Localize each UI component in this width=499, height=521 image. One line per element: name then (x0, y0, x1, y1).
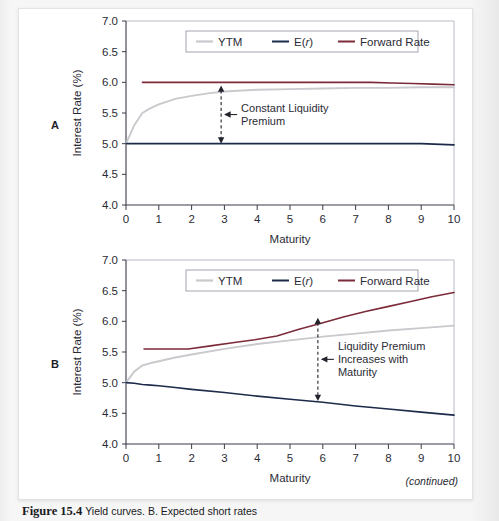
annotation-text-line: Maturity (338, 366, 378, 378)
y-axis-title: Interest Rate (%) (71, 308, 83, 395)
panel-b-plot: 4.04.55.05.56.06.57.0012345678910Maturit… (19, 254, 474, 487)
y-tick-label: 5.5 (102, 107, 118, 119)
annotation-text-line: Premium (241, 115, 285, 127)
x-tick-label: 10 (448, 452, 461, 464)
y-tick-label: 7.0 (102, 15, 118, 27)
x-tick-label: 8 (385, 213, 391, 225)
continued-note: (continued) (405, 475, 458, 487)
legend-label-ytm: YTM (218, 275, 242, 287)
x-tick-label: 5 (287, 452, 293, 464)
x-tick-label: 9 (418, 213, 424, 225)
series-line-e-r- (126, 144, 454, 145)
annotation-arrowhead-down (218, 137, 224, 143)
y-tick-label: 6.5 (102, 46, 118, 58)
legend-label-forward-rate: Forward Rate (360, 36, 430, 48)
legend-label-e-r-: E(r) (294, 275, 313, 287)
figure-caption-number: Figure 15.4 (22, 504, 82, 518)
x-tick-label: 6 (320, 452, 326, 464)
y-axis-title: Interest Rate (%) (71, 69, 83, 156)
page-background: A 4.04.55.05.56.06.57.0012345678910Matur… (0, 0, 499, 521)
annotation-arrowhead-up (218, 85, 224, 91)
series-line-forward-rate (142, 82, 454, 84)
x-tick-label: 4 (254, 452, 261, 464)
y-tick-label: 6.5 (102, 285, 118, 297)
y-tick-label: 4.5 (102, 407, 118, 419)
x-tick-label: 8 (385, 452, 391, 464)
series-line-e-r- (126, 383, 454, 416)
annotation-arrowhead-up (315, 318, 321, 324)
x-tick-label: 0 (123, 452, 129, 464)
x-tick-label: 10 (448, 213, 461, 225)
x-tick-label: 7 (352, 213, 358, 225)
y-tick-label: 5.0 (102, 377, 118, 389)
y-tick-label: 6.0 (102, 76, 118, 88)
figure-caption: Figure 15.4 Yield curves. B. Expected sh… (22, 504, 482, 519)
annotation-text-line: Constant Liquidity (241, 102, 329, 114)
x-tick-label: 1 (156, 213, 162, 225)
chart-panel-a: A 4.04.55.05.56.06.57.0012345678910Matur… (19, 15, 474, 248)
panel-a-plot: 4.04.55.05.56.06.57.0012345678910Maturit… (19, 15, 474, 248)
annotation-text-line: Increases with (338, 353, 408, 365)
annotation-arrowhead-down (315, 395, 321, 401)
x-tick-label: 6 (320, 213, 326, 225)
y-tick-label: 7.0 (102, 254, 118, 266)
x-tick-label: 9 (418, 452, 424, 464)
y-tick-label: 5.0 (102, 138, 118, 150)
chart-panel-b: B 4.04.55.05.56.06.57.0012345678910Matur… (19, 254, 474, 487)
legend-label-ytm: YTM (218, 36, 242, 48)
x-tick-label: 1 (156, 452, 162, 464)
x-tick-label: 2 (188, 452, 194, 464)
x-tick-label: 4 (254, 213, 261, 225)
legend-label-forward-rate: Forward Rate (360, 275, 430, 287)
figure-card: A 4.04.55.05.56.06.57.0012345678910Matur… (18, 8, 473, 500)
x-tick-label: 3 (221, 452, 227, 464)
x-tick-label: 3 (221, 213, 227, 225)
x-tick-label: 5 (287, 213, 293, 225)
x-axis-title: Maturity (270, 233, 311, 245)
x-tick-label: 2 (188, 213, 194, 225)
y-tick-label: 5.5 (102, 346, 118, 358)
annotation-text-line: Liquidity Premium (338, 340, 425, 352)
y-tick-label: 6.0 (102, 315, 118, 327)
x-tick-label: 0 (123, 213, 129, 225)
series-line-ytm (126, 87, 454, 143)
annotation-leader-arrowhead (224, 111, 231, 117)
y-tick-label: 4.0 (102, 438, 118, 450)
x-axis-title: Maturity (270, 472, 311, 484)
annotation-leader-arrowhead (321, 356, 328, 362)
x-tick-label: 7 (352, 452, 358, 464)
figure-caption-text: Yield curves. B. Expected short rates (85, 505, 257, 517)
legend-label-e-r-: E(r) (294, 36, 313, 48)
y-tick-label: 4.0 (102, 199, 118, 211)
y-tick-label: 4.5 (102, 168, 118, 180)
